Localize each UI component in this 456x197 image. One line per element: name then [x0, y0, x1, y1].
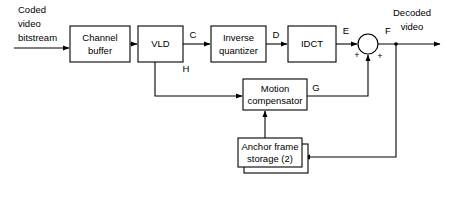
block-anchor-frame-storage[interactable]: Anchor frame storage (2) [238, 138, 308, 173]
input-label-group: Coded video bitstream [18, 4, 57, 43]
output-label-group: Decoded video [393, 7, 431, 32]
output-label-line1: Decoded [393, 7, 431, 18]
block-motion-compensator-label-line1: Motion [261, 83, 290, 94]
block-vld-label: VLD [151, 38, 170, 49]
signal-label-g: G [312, 82, 319, 93]
block-motion-compensator-label-line2: compensator [248, 95, 303, 106]
block-motion-compensator[interactable]: Motion compensator [243, 79, 307, 110]
block-inverse-quantizer[interactable]: Inverse quantizer [211, 26, 266, 62]
mpeg-decoder-diagram: Coded video bitstream Channel buffer VLD… [0, 0, 456, 197]
block-idct-label: IDCT [301, 38, 323, 49]
block-vld[interactable]: VLD [138, 26, 183, 62]
block-idct[interactable]: IDCT [288, 26, 336, 62]
summing-junction-circle [358, 34, 378, 54]
block-inverse-quantizer-label-line2: quantizer [219, 45, 258, 56]
block-channel-buffer-label-line2: buffer [88, 45, 112, 56]
input-label-line2: video [18, 18, 41, 29]
signal-label-e: E [343, 25, 349, 36]
signal-label-f: F [385, 25, 391, 36]
signal-label-d: D [273, 29, 280, 40]
block-anchor-frame-storage-label-line1: Anchor frame [241, 141, 298, 152]
input-label-line1: Coded [18, 4, 46, 15]
wire-vld-to-motion-compensator [155, 62, 242, 96]
output-label-line2: video [401, 21, 424, 32]
block-diagram-canvas: Coded video bitstream Channel buffer VLD… [0, 0, 456, 197]
block-channel-buffer-label-line1: Channel [82, 32, 117, 43]
block-channel-buffer[interactable]: Channel buffer [70, 26, 130, 62]
block-anchor-frame-storage-label-line2: storage (2) [247, 153, 293, 164]
signal-label-h: H [183, 63, 190, 74]
block-inverse-quantizer-label-line1: Inverse [223, 32, 254, 43]
input-label-line3: bitstream [18, 32, 57, 43]
signal-label-c: C [190, 29, 197, 40]
summing-junction-plus-right: + [377, 51, 382, 61]
summing-junction-plus-left: + [354, 50, 359, 60]
